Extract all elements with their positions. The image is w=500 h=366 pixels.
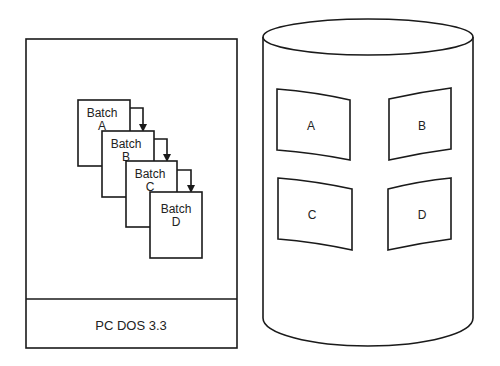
- cylinder-top: [263, 19, 473, 55]
- batch-page-d-title: Batch: [161, 202, 192, 216]
- batch-page-d-letter: D: [172, 215, 181, 229]
- batch-page-a-title: Batch: [87, 106, 118, 120]
- batch-page-d: Batch D: [150, 192, 202, 258]
- partition-b: B: [389, 88, 451, 160]
- partition-d: D: [388, 178, 451, 250]
- batch-page-c-title: Batch: [135, 167, 166, 181]
- partition-a: A: [277, 89, 350, 160]
- partition-c-label: C: [308, 208, 317, 222]
- partition-c: C: [278, 178, 352, 250]
- partition-b-label: B: [418, 119, 426, 133]
- batch-page-b-title: Batch: [111, 137, 142, 151]
- os-label: PC DOS 3.3: [95, 318, 167, 333]
- partition-d-label: D: [418, 208, 427, 222]
- diagram-canvas: PC DOS 3.3 Batch A Batch B Batch: [0, 0, 500, 366]
- partition-a-label: A: [307, 119, 315, 133]
